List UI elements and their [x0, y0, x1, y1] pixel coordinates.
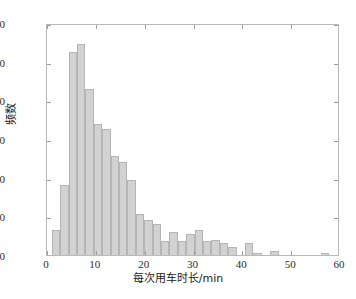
- histogram-bar: [161, 241, 169, 255]
- histogram-bar: [69, 52, 77, 255]
- histogram-bar: [195, 230, 203, 255]
- histogram-bar: [245, 243, 253, 255]
- x-tick-mark: [242, 251, 243, 255]
- y-tick-mark: [47, 64, 51, 65]
- histogram-bar: [178, 241, 186, 255]
- y-tick-mark: [334, 25, 338, 26]
- histogram-bar: [253, 253, 261, 255]
- y-tick-mark: [334, 218, 338, 219]
- y-tick-label: 100: [0, 58, 5, 69]
- histogram-bar: [111, 156, 119, 255]
- histogram-bar: [169, 232, 177, 255]
- histogram-bar: [211, 240, 219, 255]
- y-tick-mark: [334, 180, 338, 181]
- histogram-bar: [203, 241, 211, 255]
- x-axis-title: 每次用车时长/min: [0, 273, 356, 285]
- histogram-bar: [85, 89, 93, 255]
- y-tick-label: 60: [0, 135, 5, 146]
- histogram-bar: [228, 247, 236, 255]
- y-tick-mark: [334, 102, 338, 103]
- y-tick-mark: [47, 141, 51, 142]
- histogram-bar: [127, 180, 135, 255]
- histogram-bar: [60, 185, 68, 255]
- histogram-bar: [119, 162, 127, 255]
- x-tick-mark: [47, 251, 48, 255]
- y-tick-label: 20: [0, 212, 5, 223]
- y-tick-label: 40: [0, 174, 5, 185]
- y-tick-mark: [47, 180, 51, 181]
- x-tick-mark: [96, 25, 97, 29]
- x-tick-mark: [291, 251, 292, 255]
- x-tick-label: 60: [334, 259, 345, 270]
- x-tick-label: 40: [236, 259, 247, 270]
- bars-layer: [47, 25, 338, 255]
- x-tick-mark: [145, 25, 146, 29]
- x-tick-label: 20: [138, 259, 149, 270]
- x-tick-mark: [291, 25, 292, 29]
- y-tick-mark: [47, 102, 51, 103]
- x-tick-label: 10: [89, 259, 100, 270]
- histogram-bar: [136, 214, 144, 255]
- histogram-bar: [321, 253, 329, 255]
- histogram-bar: [270, 251, 278, 255]
- y-tick-label: 0: [0, 251, 5, 262]
- y-tick-mark: [47, 218, 51, 219]
- top-edge-artifact: [90, 1, 260, 7]
- histogram-bar: [144, 220, 152, 255]
- x-tick-mark: [96, 251, 97, 255]
- histogram-bar: [102, 129, 110, 255]
- y-tick-label: 80: [0, 96, 5, 107]
- x-tick-mark: [194, 25, 195, 29]
- x-tick-label: 30: [187, 259, 198, 270]
- y-tick-mark: [334, 141, 338, 142]
- histogram-bar: [77, 44, 85, 255]
- x-tick-label: 0: [43, 259, 49, 270]
- plot-area: [46, 24, 339, 256]
- x-tick-mark: [145, 251, 146, 255]
- histogram-figure: 频数 020406080100120 0102030405060 每次用车时长/…: [0, 0, 356, 299]
- histogram-bar: [220, 243, 228, 255]
- y-axis-title: 频数: [6, 103, 18, 125]
- histogram-bar: [153, 224, 161, 255]
- y-tick-mark: [334, 64, 338, 65]
- x-tick-mark: [194, 251, 195, 255]
- x-tick-mark: [47, 25, 48, 29]
- histogram-bar: [52, 230, 60, 255]
- x-tick-mark: [242, 25, 243, 29]
- histogram-bar: [94, 124, 102, 255]
- y-tick-label: 120: [0, 19, 5, 30]
- x-tick-label: 50: [285, 259, 296, 270]
